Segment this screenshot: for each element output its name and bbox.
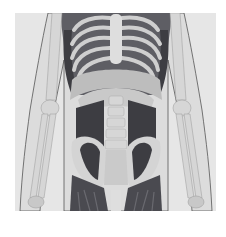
anatomy-svg: [15, 13, 216, 211]
sternum: [110, 14, 122, 64]
diaphragm: [70, 70, 162, 113]
image-frame: Front view anatomical drawing of human t…: [0, 0, 226, 237]
anatomy-illustration: [15, 13, 216, 211]
